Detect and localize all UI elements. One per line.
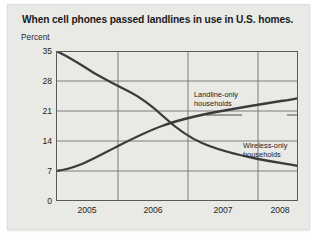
- annotation-landline-only: Landline-only households: [194, 90, 238, 108]
- y-tick-35: 35: [22, 46, 52, 56]
- chart-title: When cell phones passed landlines in use…: [22, 14, 312, 25]
- y-axis-label: Percent: [21, 32, 50, 42]
- x-tick-2007: 2007: [213, 205, 232, 215]
- annotation-wireless-only-line2: households: [243, 150, 287, 159]
- y-tick-14: 14: [22, 136, 52, 146]
- chart-figure: When cell phones passed landlines in use…: [0, 0, 317, 239]
- plot-area: [56, 51, 298, 201]
- annotation-wireless-only-line1: Wireless-only: [243, 141, 287, 150]
- annotation-wireless-only: Wireless-only households: [243, 141, 287, 159]
- x-tick-2008: 2008: [270, 205, 289, 215]
- chart-card: When cell phones passed landlines in use…: [7, 4, 310, 230]
- y-tick-28: 28: [22, 76, 52, 86]
- annotation-landline-only-line1: Landline-only: [194, 90, 238, 99]
- plot-border: [56, 51, 298, 201]
- y-tick-0: 0: [22, 196, 52, 206]
- annotation-landline-only-line2: households: [194, 99, 238, 108]
- x-tick-2006: 2006: [143, 205, 162, 215]
- y-tick-7: 7: [22, 166, 52, 176]
- x-tick-2005: 2005: [77, 205, 96, 215]
- y-tick-21: 21: [22, 106, 52, 116]
